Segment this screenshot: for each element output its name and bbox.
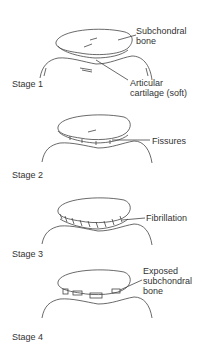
stage-3-illustration (42, 198, 152, 245)
label-fissures: Fissures (152, 136, 186, 146)
label-fibrillation: Fibrillation (146, 213, 187, 223)
stage-2-illustration (42, 115, 152, 163)
stage-2-label: Stage 2 (12, 170, 43, 180)
label-subchondral-bone: Subchondral bone (136, 26, 187, 46)
stage-3-label: Stage 3 (12, 249, 43, 259)
stage-4-illustration (42, 270, 152, 318)
label-exposed-subchondral-bone: Exposed subchondral bone (143, 266, 192, 296)
stage-4-label: Stage 4 (12, 332, 43, 342)
label-articular-cartilage: Articular cartilage (soft) (130, 78, 187, 98)
stage-1-label: Stage 1 (12, 79, 43, 89)
